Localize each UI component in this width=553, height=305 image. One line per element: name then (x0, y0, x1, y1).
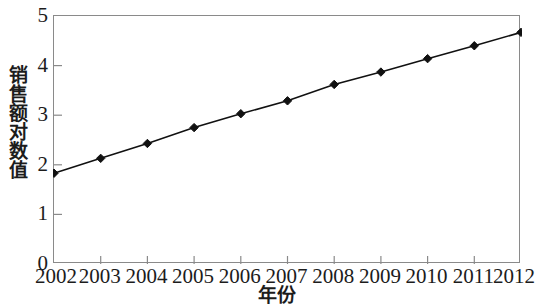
x-tick-label: 2010 (406, 266, 448, 287)
data-point-marker (190, 123, 198, 131)
y-tick-label: 3 (26, 104, 48, 125)
plot-area (53, 15, 520, 263)
data-point-marker (237, 110, 245, 118)
x-tick-label: 2009 (359, 266, 401, 287)
data-point-marker (330, 80, 338, 88)
x-tick-label: 2008 (312, 266, 354, 287)
x-tick-label: 2005 (172, 266, 214, 287)
line-chart-figure: 销售额对数值 012345 20022003200420052006200720… (0, 0, 553, 305)
data-point-marker (517, 28, 522, 36)
x-tick-label: 2012 (493, 266, 535, 287)
x-axis-title: 年份 (0, 286, 553, 305)
x-tick-label: 2004 (125, 266, 167, 287)
y-tick-label: 2 (26, 153, 48, 174)
data-point-marker (423, 54, 431, 62)
x-tick-label: 2002 (35, 266, 77, 287)
y-tick-label: 5 (26, 5, 48, 26)
series-canvas (53, 15, 522, 265)
y-axis-tick-labels: 012345 (8, 0, 48, 305)
y-tick-label: 4 (26, 54, 48, 75)
data-point-marker (53, 169, 58, 177)
data-point-marker (377, 68, 385, 76)
data-point-marker (97, 154, 105, 162)
y-tick-label: 1 (26, 203, 48, 224)
data-point-marker (143, 139, 151, 147)
x-tick-label: 2011 (453, 266, 494, 287)
data-point-marker (283, 97, 291, 105)
x-tick-label: 2006 (219, 266, 261, 287)
data-point-marker (470, 42, 478, 50)
x-tick-label: 2003 (79, 266, 121, 287)
